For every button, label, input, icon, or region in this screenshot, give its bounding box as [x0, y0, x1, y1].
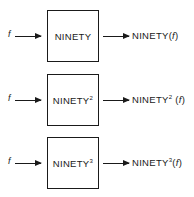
box-label: NINETY2: [53, 95, 93, 106]
ninety-cubed-box: NINETY3: [47, 137, 99, 189]
input-arrow-icon: [15, 163, 41, 164]
output-arrow-icon: [103, 163, 129, 164]
input-arrow-icon: [15, 36, 41, 37]
box-label: NINETY: [55, 31, 92, 42]
output-label: NINETY3(f): [132, 157, 182, 168]
input-arrow-icon: [15, 100, 41, 101]
ninety-squared-box: NINETY2: [47, 74, 99, 126]
row-ninety-2: f NINETY2 NINETY2 (f): [0, 74, 194, 128]
input-f: f: [8, 29, 11, 39]
ninety-box: NINETY: [47, 10, 99, 62]
box-label: NINETY3: [53, 158, 93, 169]
output-label: NINETY2 (f): [132, 94, 185, 105]
output-arrow-icon: [103, 100, 129, 101]
row-ninety-1: f NINETY NINETY(f): [0, 10, 194, 64]
input-f: f: [8, 156, 11, 166]
output-label: NINETY(f): [132, 30, 179, 41]
output-arrow-icon: [103, 36, 129, 37]
input-f: f: [8, 93, 11, 103]
row-ninety-3: f NINETY3 NINETY3(f): [0, 137, 194, 191]
